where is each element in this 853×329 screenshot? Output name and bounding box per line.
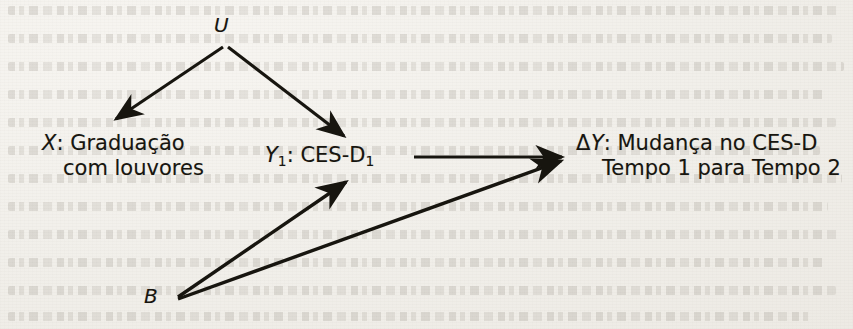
node-delta-y-line1: ΔY: Mudança no CES-D bbox=[576, 131, 817, 155]
node-delta-y-line2: Tempo 1 para Tempo 2 bbox=[576, 156, 841, 181]
node-x-line1: X: Graduação bbox=[42, 131, 185, 155]
node-delta-y-line1-text: : Mudança no CES-D bbox=[604, 131, 818, 155]
node-x-line2: com louvores bbox=[42, 156, 204, 181]
edge-b-to-delta-y bbox=[178, 161, 561, 299]
node-y1-text: : CES-D bbox=[287, 143, 366, 167]
node-u-label: U bbox=[214, 13, 229, 37]
node-x-variable: X bbox=[42, 131, 56, 155]
node-b-label: B bbox=[144, 284, 158, 308]
edge-u-to-y1 bbox=[228, 47, 344, 136]
node-b: B bbox=[144, 285, 158, 309]
node-u: U bbox=[214, 14, 229, 38]
node-x: X: Graduação com louvores bbox=[42, 131, 204, 181]
path-diagram: U X: Graduação com louvores Y1: CES-D1 Δ… bbox=[0, 0, 853, 329]
node-delta-y-variable: Y bbox=[591, 131, 604, 155]
node-y1: Y1: CES-D1 bbox=[265, 143, 374, 169]
edge-b-to-y1 bbox=[178, 182, 346, 297]
scanned-diagram-page: U X: Graduação com louvores Y1: CES-D1 Δ… bbox=[0, 0, 853, 329]
node-delta-y: ΔY: Mudança no CES-D Tempo 1 para Tempo … bbox=[576, 131, 841, 181]
node-y1-variable-subscript: 1 bbox=[278, 153, 287, 169]
node-x-line1-text: : Graduação bbox=[56, 131, 184, 155]
node-y1-variable: Y bbox=[265, 143, 278, 167]
delta-symbol: Δ bbox=[576, 131, 591, 155]
edge-u-to-x bbox=[116, 47, 223, 119]
node-y1-measure-subscript: 1 bbox=[365, 153, 374, 169]
